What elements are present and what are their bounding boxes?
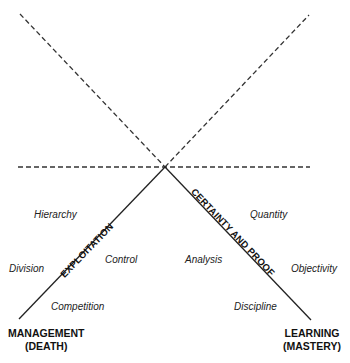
term-competition: Competition (51, 301, 104, 312)
corner-label-learning: LEARNING (MASTERY) (283, 327, 341, 353)
corner-label-management-subtitle: (DEATH) (8, 340, 84, 353)
dashed-diagonal-right (165, 15, 309, 167)
term-hierarchy: Hierarchy (34, 209, 77, 220)
term-quantity: Quantity (250, 209, 287, 220)
term-objectivity: Objectivity (291, 263, 337, 274)
term-division: Division (9, 263, 44, 274)
dashed-diagonal-left (20, 14, 165, 167)
corner-label-learning-subtitle: (MASTERY) (283, 340, 341, 353)
term-analysis: Analysis (185, 254, 222, 265)
corner-label-management: MANAGEMENT (DEATH) (8, 327, 84, 353)
corner-label-learning-title: LEARNING (283, 327, 341, 340)
term-discipline: Discipline (234, 301, 277, 312)
term-control: Control (105, 254, 137, 265)
corner-label-management-title: MANAGEMENT (8, 327, 84, 340)
